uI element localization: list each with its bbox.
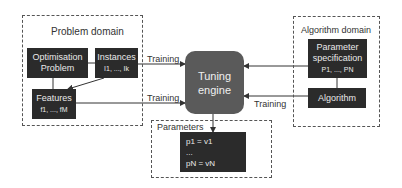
algorithm-node: Algorithm [308,88,366,108]
optimisation-problem-line2: Problem [41,63,75,74]
parameter-first: p1 = v1 [186,136,212,147]
features-node: Features f1, ..., fM [32,89,76,119]
optimisation-problem-node: Optimisation Problem [27,48,88,78]
algorithm-label: Algorithm [318,93,356,104]
parameter-spec-range: P1, ..., PN [322,64,354,75]
parameter-spec-line2: specification [313,53,363,64]
parameter-ellipsis: ... [186,147,193,158]
edge-label-training-bottom: Training [147,93,179,103]
parameter-values-node: p1 = v1 ... pN = vN [180,132,246,172]
tuning-engine-line1: Tuning [198,69,231,83]
instances-label: Instances [97,52,136,63]
parameter-last: pN = vN [186,158,215,169]
algorithm-domain-title: Algorithm domain [301,25,371,35]
tuning-engine-line2: engine [198,83,231,97]
problem-domain-title: Problem domain [51,26,124,37]
features-range: f1, ..., fM [40,104,67,115]
instances-range: I1, ..., Ik [104,63,129,74]
tuning-engine-node: Tuning engine [185,51,244,114]
parameter-spec-line1: Parameter [316,42,358,53]
edge-label-training-top: Training [147,54,179,64]
edge-label-training-right: Training [254,99,286,109]
optimisation-problem-line1: Optimisation [32,52,82,63]
features-label: Features [36,93,72,104]
parameters-title: Parameters [157,122,204,132]
instances-node: Instances I1, ..., Ik [95,48,138,78]
parameter-specification-node: Parameter specification P1, ..., PN [308,39,367,78]
